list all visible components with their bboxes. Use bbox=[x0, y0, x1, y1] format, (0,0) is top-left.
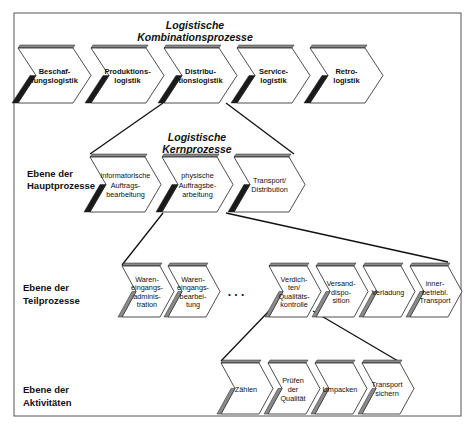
connector-distribution-right bbox=[226, 103, 294, 154]
connector-physical-left bbox=[122, 213, 163, 265]
chevron-label-line: Verladung bbox=[372, 288, 405, 297]
chevron-label-line: Produktions- bbox=[104, 67, 151, 76]
sub-process-right-0: Verdich-ten/Qualitäts-kontrolle bbox=[265, 263, 321, 317]
chevron-top-bar bbox=[90, 154, 147, 157]
chevron-top-bar bbox=[315, 360, 355, 363]
process-hierarchy-diagram: Logistische Kombinationsprozesse Logisti… bbox=[0, 0, 473, 426]
level-label-main-line2: Hauptprozesse bbox=[27, 180, 95, 191]
chevron-top-bar bbox=[316, 263, 356, 266]
chevron-top-bar bbox=[91, 45, 148, 48]
level-label-main-line1: Ebene der bbox=[27, 168, 73, 179]
core-process-row: informatorischeAuftrags-bearbeitungphysi… bbox=[84, 154, 305, 212]
chevron-top-bar bbox=[221, 360, 261, 363]
chevron-label-line: sichern bbox=[375, 389, 399, 398]
chevron-label-line: Transport bbox=[420, 296, 451, 305]
chevron-label-line: Zählen bbox=[235, 385, 257, 394]
level-label-sub-line2: Teilprozesse bbox=[23, 295, 80, 306]
chevron-label-line: Transport/ bbox=[253, 176, 287, 185]
chevron-top-bar bbox=[168, 263, 208, 266]
combination-process-4: Retro-logistik bbox=[304, 45, 383, 103]
activity-0: Zählen bbox=[217, 360, 273, 414]
chevron-top-bar bbox=[18, 45, 75, 48]
core-process-1: physischeAuftragsbe-arbeitung bbox=[156, 154, 233, 212]
connector-quality-right bbox=[313, 311, 398, 361]
chevron-label-line: logistik bbox=[333, 76, 360, 85]
chevron-label-line: informatorische bbox=[101, 171, 151, 180]
chevron-label-line: Qualität bbox=[280, 394, 305, 403]
chevron-top-bar bbox=[164, 45, 221, 48]
chevron-label-line: tration bbox=[137, 300, 157, 309]
ellipsis: . . . bbox=[228, 285, 245, 299]
chevron-top-bar bbox=[122, 263, 162, 266]
level-label-activities-line2: Aktivitäten bbox=[23, 397, 72, 408]
connector-distribution-left bbox=[90, 103, 163, 154]
core-title-line2: Kernprozesse bbox=[162, 143, 232, 155]
chevron-label-line: Umpacken bbox=[323, 385, 358, 394]
combination-process-1: Produktions-logistik bbox=[85, 45, 164, 103]
combination-title-line1: Logistische bbox=[166, 19, 225, 31]
chevron-label-line: tung bbox=[186, 300, 200, 309]
combination-process-row: Beschaf-fungslogistikProduktions-logisti… bbox=[12, 45, 383, 103]
chevron-label-line: Distribu- bbox=[185, 67, 216, 76]
chevron-label-line: logistik bbox=[260, 76, 287, 85]
chevron-label-line: der bbox=[288, 385, 299, 394]
sub-process-row-left: Waren-eingangs-adminis-trationWaren-eing… bbox=[118, 263, 220, 317]
combination-process-2: Distribu-tionslogistik bbox=[158, 45, 237, 103]
level-label-sub-line1: Ebene der bbox=[23, 282, 69, 293]
chevron-label-line: Transport bbox=[372, 380, 403, 389]
activity-row: ZählenPrüfenderQualitätUmpackenTransport… bbox=[217, 360, 414, 414]
connector-lines bbox=[90, 103, 448, 361]
chevron-label-line: kontrolle bbox=[280, 300, 308, 309]
chevron-top-bar bbox=[237, 45, 294, 48]
chevron-label-line: Prüfen bbox=[282, 376, 304, 385]
chevron-label-line: physische bbox=[181, 171, 213, 180]
chevron-label-line: Distribution bbox=[251, 185, 288, 194]
chevron-label-line: Beschaf- bbox=[39, 67, 71, 76]
chevron-label-line: bearbeitung bbox=[106, 190, 145, 199]
combination-process-0: Beschaf-fungslogistik bbox=[12, 45, 91, 103]
chevron-top-bar bbox=[234, 154, 291, 157]
connector-quality-left bbox=[221, 311, 269, 361]
chevron-label-line: Auftrags- bbox=[111, 181, 141, 190]
core-title-line1: Logistische bbox=[168, 131, 227, 143]
chevron-top-bar bbox=[362, 360, 402, 363]
combination-process-3: Service-logistik bbox=[231, 45, 310, 103]
chevron-top-bar bbox=[310, 45, 367, 48]
chevron-top-bar bbox=[268, 360, 308, 363]
core-process-2: Transport/Distribution bbox=[228, 154, 305, 212]
combination-title-line2: Kombinationsprozesse bbox=[137, 31, 253, 43]
chevron-label-line: tionslogistik bbox=[178, 76, 223, 85]
chevron-label-line: sition bbox=[332, 296, 349, 305]
chevron-top-bar bbox=[269, 263, 309, 266]
chevron-label-line: Retro- bbox=[335, 67, 358, 76]
chevron-top-bar bbox=[410, 263, 450, 266]
chevron-label-line: arbeitung bbox=[182, 190, 212, 199]
chevron-top-bar bbox=[162, 154, 219, 157]
chevron-top-bar bbox=[363, 263, 403, 266]
sub-process-row-right: Verdich-ten/Qualitäts-kontrolleVersand-d… bbox=[265, 263, 462, 317]
sub-process-left-0: Waren-eingangs-adminis-tration bbox=[118, 263, 174, 317]
core-process-0: informatorischeAuftrags-bearbeitung bbox=[84, 154, 161, 212]
chevron-label-line: Auftragsbe- bbox=[179, 181, 217, 190]
level-label-activities-line1: Ebene der bbox=[23, 384, 69, 395]
chevron-label-line: fungslogistik bbox=[31, 76, 78, 85]
chevron-label-line: logistik bbox=[114, 76, 141, 85]
connector-physical-right bbox=[226, 213, 448, 262]
chevron-label-line: Service- bbox=[259, 67, 289, 76]
